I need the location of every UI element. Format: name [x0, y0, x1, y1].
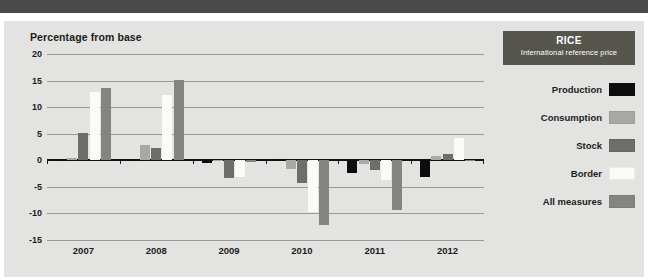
bar-consumption-2007 — [67, 158, 77, 161]
bar-stock-2012 — [443, 154, 453, 160]
bar-stock-2010 — [297, 160, 307, 182]
bar-consumption-2012 — [431, 156, 441, 160]
bar-all-measures-2008 — [174, 80, 184, 160]
y-axis-tick-label: 15 — [32, 76, 42, 86]
bar-border-2007 — [90, 92, 100, 161]
legend-item-stock[interactable]: Stock — [503, 138, 635, 152]
bar-border-2012 — [454, 138, 464, 160]
x-axis-tick-mark — [193, 160, 194, 164]
legend-item-consumption[interactable]: Consumption — [503, 110, 635, 124]
legend-title: RICE — [503, 35, 635, 47]
figure-panel: Percentage from base 20151050-5-10-15 20… — [4, 21, 644, 277]
y-axis-tick-label: 0 — [37, 155, 42, 165]
y-axis-tick-label: -10 — [29, 208, 42, 218]
gridline — [47, 187, 484, 188]
bar-all-measures-2012 — [465, 160, 475, 161]
bar-production-2012 — [420, 160, 430, 176]
bar-all-measures-2009 — [246, 160, 256, 162]
bar-stock-2008 — [151, 148, 161, 160]
bar-production-2009 — [202, 160, 212, 163]
legend-item-label: Consumption — [541, 112, 602, 123]
x-axis-tick-mark — [338, 160, 339, 164]
bar-border-2009 — [235, 160, 245, 176]
bar-stock-2007 — [78, 133, 88, 160]
x-axis-tick-mark — [47, 160, 48, 164]
legend-swatch-icon — [609, 83, 635, 96]
gridline — [47, 81, 484, 82]
bar-consumption-2008 — [140, 145, 150, 160]
y-axis-tick-label: 20 — [32, 49, 42, 59]
bar-border-2011 — [381, 160, 391, 180]
bar-consumption-2011 — [359, 160, 369, 164]
legend-item-label: Stock — [576, 140, 602, 151]
bar-production-2011 — [347, 160, 357, 172]
bar-production-2007 — [56, 160, 66, 161]
legend-item-label: Border — [571, 168, 602, 179]
legend-item-border[interactable]: Border — [503, 166, 635, 180]
legend-swatch-icon — [609, 167, 635, 180]
legend-swatch-icon — [609, 195, 635, 208]
bar-border-2010 — [308, 160, 318, 212]
bar-consumption-2009 — [213, 160, 223, 161]
x-axis-labels: 200720082009201020112012 — [47, 245, 484, 261]
top-banner-strip — [0, 0, 648, 13]
gridline — [47, 107, 484, 108]
gridline — [47, 213, 484, 214]
y-axis-tick-label: -5 — [34, 182, 42, 192]
bar-production-2010 — [275, 159, 285, 160]
x-axis-tick-label: 2007 — [73, 245, 94, 256]
legend-swatch-icon — [609, 111, 635, 124]
gridline — [47, 134, 484, 135]
y-axis-tick-label: -15 — [29, 235, 42, 245]
y-axis-tick-label: 5 — [37, 129, 42, 139]
y-axis-labels: 20151050-5-10-15 — [14, 54, 42, 240]
legend-item-all-measures[interactable]: All measures — [503, 194, 635, 208]
legend-item-label: All measures — [543, 196, 602, 207]
legend-header: RICE International reference price — [503, 31, 635, 65]
chart-screenshot: Percentage from base 20151050-5-10-15 20… — [0, 0, 648, 280]
x-axis-tick-label: 2010 — [291, 245, 312, 256]
x-axis-tick-label: 2012 — [437, 245, 458, 256]
gridline — [47, 54, 484, 55]
x-axis-tick-mark — [120, 160, 121, 164]
x-axis-tick-mark — [411, 160, 412, 164]
legend-item-label: Production — [552, 84, 602, 95]
plot-area — [47, 54, 484, 240]
bar-border-2008 — [162, 95, 172, 160]
bar-all-measures-2011 — [392, 160, 402, 210]
bar-all-measures-2010 — [319, 160, 329, 224]
bar-consumption-2010 — [286, 160, 296, 169]
gridline — [47, 240, 484, 241]
bar-all-measures-2007 — [101, 88, 111, 160]
legend-items: ProductionConsumptionStockBorderAll meas… — [503, 82, 635, 208]
bar-stock-2011 — [370, 160, 380, 170]
x-axis-tick-mark — [483, 160, 484, 164]
bar-stock-2009 — [224, 160, 234, 178]
page-title: Percentage from base — [30, 31, 142, 43]
x-axis-tick-label: 2009 — [219, 245, 240, 256]
legend-swatch-icon — [609, 139, 635, 152]
x-axis-tick-mark — [266, 160, 267, 164]
legend-subtitle: International reference price — [503, 47, 635, 58]
legend-item-production[interactable]: Production — [503, 82, 635, 96]
x-axis-tick-label: 2011 — [364, 245, 385, 256]
legend: RICE International reference price Produ… — [503, 31, 635, 222]
x-axis-tick-label: 2008 — [146, 245, 167, 256]
bar-production-2008 — [129, 160, 139, 161]
y-axis-tick-label: 10 — [32, 102, 42, 112]
